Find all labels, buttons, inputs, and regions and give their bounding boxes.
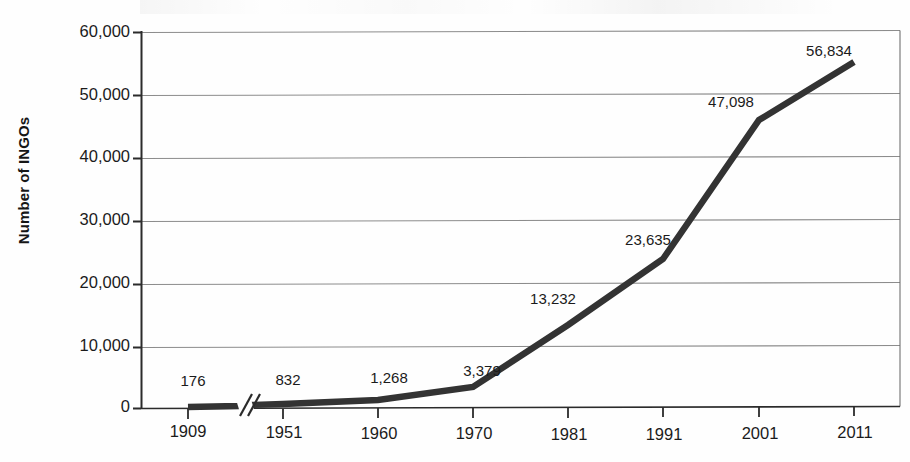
x-tick-label-2011: 2011	[837, 423, 872, 442]
data-label-2011: 56,834	[806, 42, 852, 59]
gridlines	[141, 31, 900, 348]
x-tick-label-1970: 1970	[456, 424, 493, 443]
data-series-line	[188, 62, 854, 407]
x-tick-label-1960: 1960	[361, 424, 398, 443]
gridline-10000	[141, 346, 900, 348]
data-label-2001: 47,098	[708, 93, 754, 110]
data-label-1909: 176	[180, 372, 205, 389]
data-label-1960: 1,268	[370, 369, 408, 386]
x-tick-label-2001: 2001	[742, 424, 779, 443]
data-label-1991: 23,635	[625, 231, 671, 248]
data-label-1970: 3,379	[463, 362, 501, 379]
gridline-30000	[141, 220, 900, 222]
gridline-50000	[141, 94, 900, 96]
data-label-1951: 832	[275, 371, 300, 388]
data-label-1981: 13,232	[530, 290, 576, 307]
gridline-60000	[141, 31, 900, 33]
plot-area	[0, 0, 910, 462]
x-tick-label-1951: 1951	[266, 423, 303, 442]
gridline-20000	[141, 283, 900, 285]
y-axis-ticks	[133, 33, 141, 409]
gridline-40000	[141, 157, 900, 159]
x-tick-label-1991: 1991	[646, 425, 683, 444]
ingo-growth-line-chart: Number of INGOs 60,000 50,000 40,000 30,…	[0, 0, 910, 462]
x-tick-label-1981: 1981	[551, 425, 588, 444]
x-tick-label-1909: 1909	[170, 422, 207, 441]
